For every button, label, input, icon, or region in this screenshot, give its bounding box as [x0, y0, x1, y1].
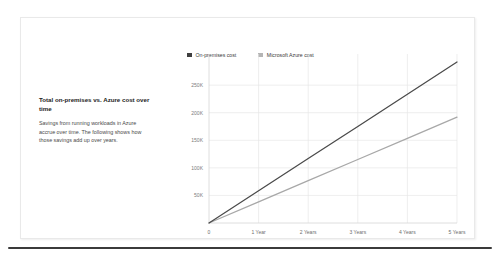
- x-tick-label: 1 Year: [242, 229, 276, 235]
- y-tick-label: 100K: [181, 165, 203, 171]
- x-tick-label: 3 Years: [341, 229, 375, 235]
- panel-description-text: Savings from running workloads in Azure …: [39, 119, 151, 144]
- page-root: Total on-premises vs. Azure cost over ti…: [0, 0, 497, 256]
- y-tick-label: 50K: [181, 192, 203, 198]
- content-card: Total on-premises vs. Azure cost over ti…: [20, 17, 475, 239]
- x-tick-label: 4 Years: [390, 229, 424, 235]
- y-tick-label: 200K: [181, 110, 203, 116]
- cost-comparison-chart: On-premises cost Microsoft Azure cost 50…: [161, 32, 461, 227]
- plot-svg: [161, 32, 461, 227]
- page-title: Total on-premises vs. Azure cost over ti…: [39, 96, 151, 113]
- y-tick-label: 150K: [181, 137, 203, 143]
- y-tick-label: 250K: [181, 82, 203, 88]
- x-tick-label: 5 Years: [440, 229, 474, 235]
- x-tick-label: 0: [192, 229, 226, 235]
- description-panel: Total on-premises vs. Azure cost over ti…: [39, 96, 151, 144]
- x-tick-label: 2 Years: [291, 229, 325, 235]
- plot-area: 50K100K150K200K250K 01 Year2 Years3 Year…: [161, 32, 461, 227]
- horizontal-rule: [8, 247, 492, 249]
